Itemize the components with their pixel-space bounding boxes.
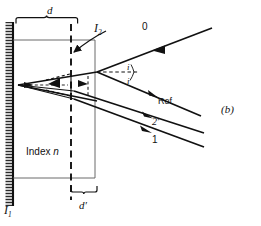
ray-1-label: 1 [152,135,158,145]
interface-I1-subscript: 1 [8,210,12,219]
medium-index-label: Index n [26,147,59,157]
angle-arc-bottom [130,72,134,81]
interface-I1-label: I1 [4,204,12,219]
ray-1-line [74,99,204,147]
medium-index-symbol: n [53,146,59,157]
medium-index-text: Index [26,146,53,157]
brace-dprime-path [71,186,97,194]
reflected-ray-arrowhead [148,90,158,98]
hatched-wall-group [6,22,14,206]
angle-i-bottom-label: i [127,77,130,86]
figure-caption: (b) [221,104,234,115]
optics-ray-diagram: d I2 0 i i Ref 2′ 1 Index n d′ I1 (b) [0,0,261,226]
ray-2prime-line [74,91,204,133]
thickness-dprime-label: d′ [79,200,87,211]
thickness-d-label: d [47,5,53,16]
interface-I2-label: I2 [94,22,102,37]
film-rectangle-group [13,40,95,178]
wall-hatching [6,22,14,206]
reflected-ray-label: Ref [158,97,172,106]
angle-i-top-label: i [127,63,130,72]
brace-d-path [16,16,78,24]
ray-2prime-label: 2′ [152,117,159,127]
wedge-arrowhead-mid [78,80,88,87]
brace-d-group [16,16,78,24]
brace-dprime-group [71,186,97,194]
internal-ray-wedge [18,72,97,101]
angle-arc-top [131,65,134,73]
interface-I2-subscript: 2 [98,28,102,37]
incident-ray-label: 0 [142,22,148,32]
